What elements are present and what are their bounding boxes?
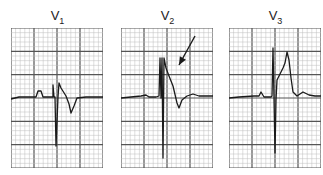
lead-label: V3 (229, 8, 322, 26)
lead-v1: V1 (11, 0, 104, 175)
lead-label: V1 (11, 8, 104, 26)
lead-subscript: 3 (277, 16, 282, 26)
lead-subscript: 1 (59, 16, 64, 26)
lead-subscript: 2 (169, 16, 174, 26)
ecg-grid-panel (229, 28, 321, 168)
lead-v3: V3 (229, 0, 322, 175)
lead-label: V2 (121, 8, 214, 26)
lead-v2: V2 (121, 0, 214, 175)
ecg-grid-panel (11, 28, 103, 168)
ecg-grid-panel (121, 28, 213, 168)
